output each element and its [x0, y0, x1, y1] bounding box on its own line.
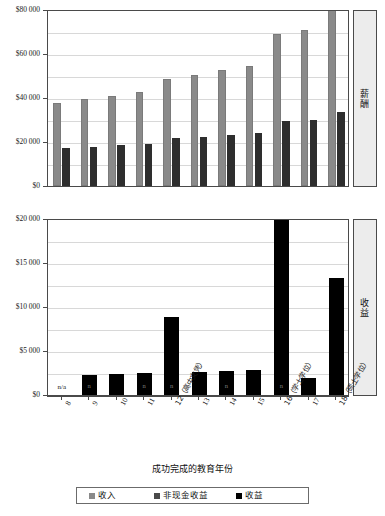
- ytick-label-bot-1: $15 000: [0, 259, 40, 267]
- bar-income-8: [53, 103, 61, 186]
- x-tick-label-5: 13: [201, 397, 212, 407]
- legend-item-income: 收入: [89, 491, 116, 500]
- bars-compensation: [48, 11, 348, 186]
- bar-income-17: [301, 30, 309, 186]
- bar-benefit-15: [255, 133, 263, 186]
- ytick-label-top-0: $80 000: [0, 6, 40, 14]
- bar-income-16: [273, 34, 281, 186]
- n-mark-14: n: [213, 383, 240, 390]
- figure-root: $80 000 $60 000 $40 000 $20 000 $0 薪酬: [0, 0, 385, 516]
- x-tick-7: [253, 396, 254, 400]
- x-tick-4: [171, 396, 172, 400]
- bar-benefit-9: [90, 147, 98, 186]
- ytick-label-bot-0: $20 000: [0, 215, 40, 223]
- ytick-label-top-4: $0: [0, 182, 40, 190]
- n-mark-9: n: [75, 383, 102, 390]
- bar-income-9: [81, 99, 89, 186]
- n-mark-11: n: [130, 383, 157, 390]
- x-axis-title: 成功完成的教育年份: [0, 464, 385, 475]
- plot-inner-compensation: [48, 11, 348, 186]
- x-tick-1: [88, 396, 89, 400]
- bar-income-14: [218, 70, 226, 186]
- x-tick-label-1: 9: [91, 400, 100, 407]
- x-tick-10: [335, 396, 336, 400]
- panel-label-compensation: 薪酬: [353, 10, 377, 187]
- bar-income-18: [328, 11, 336, 186]
- x-tick-2: [116, 396, 117, 400]
- bar-benefit-18: [337, 112, 345, 186]
- bar-benefit-16: [282, 121, 290, 186]
- x-tick-5: [198, 396, 199, 400]
- bar-income-15: [246, 66, 254, 186]
- x-tick-label-3: 11: [146, 397, 157, 407]
- x-tick-group: 89101112（高中文凭）13141516（学士学位）1718（硕士学位）: [47, 396, 349, 466]
- na-label-8: n/a: [48, 384, 75, 391]
- x-tick-8: [280, 396, 281, 400]
- bar-income-11: [136, 92, 144, 186]
- x-tick-label-6: 14: [228, 397, 239, 407]
- x-tick-9: [308, 396, 309, 400]
- legend-label-noncash: 非现金收益: [163, 491, 208, 500]
- bar-benefit-11: [145, 144, 153, 186]
- ytick-label-top-3: $20 000: [0, 138, 40, 146]
- x-tick-0: [61, 396, 62, 400]
- panel-label-benefits-text: 收益: [359, 298, 372, 318]
- x-axis: 89101112（高中文凭）13141516（学士学位）1718（硕士学位）: [0, 396, 385, 466]
- legend-label-income: 收入: [98, 491, 116, 500]
- bar-benefit-17: [310, 120, 318, 186]
- ytick-label-bot-2: $10 000: [0, 303, 40, 311]
- bar-income-13: [191, 75, 199, 186]
- legend-item-noncash: 非现金收益: [154, 491, 208, 500]
- x-tick-label-2: 10: [119, 397, 130, 407]
- bar-benefit-8: [62, 148, 70, 186]
- legend-label-benefits: 收益: [245, 491, 263, 500]
- x-tick-label-9: 17: [311, 397, 322, 407]
- legend-swatch-income: [89, 493, 95, 499]
- legend-swatch-noncash: [154, 493, 160, 499]
- ytick-label-top-1: $60 000: [0, 50, 40, 58]
- bar-benefit-12: [172, 138, 180, 186]
- x-tick-6: [225, 396, 226, 400]
- x-tick-label-0: 8: [64, 400, 73, 407]
- bar-benefit-14: [227, 135, 235, 186]
- bar-benefit-13: [200, 137, 208, 186]
- bar-income-10: [108, 96, 116, 186]
- legend-swatch-benefits: [236, 493, 242, 499]
- bar-benefit-10: [117, 145, 125, 186]
- ytick-label-top-2: $40 000: [0, 94, 40, 102]
- panel-label-compensation-text: 薪酬: [359, 89, 372, 109]
- x-tick-label-7: 15: [256, 397, 267, 407]
- bar-income-12: [163, 79, 171, 186]
- ytick-label-bot-3: $5 000: [0, 347, 40, 355]
- x-tick-3: [143, 396, 144, 400]
- legend: 收入 非现金收益 收益: [76, 487, 309, 504]
- chart-compensation: $80 000 $60 000 $40 000 $20 000 $0 薪酬: [0, 0, 385, 200]
- legend-item-benefits: 收益: [236, 491, 263, 500]
- plot-area-compensation: [47, 10, 349, 187]
